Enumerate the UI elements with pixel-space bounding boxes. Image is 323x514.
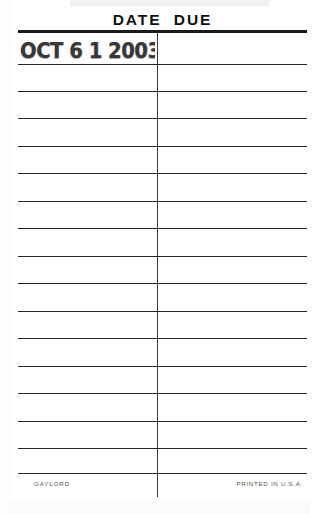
- card-footer: GAYLORD PRINTED IN U.S.A.: [18, 480, 307, 494]
- column-divider: [157, 32, 158, 497]
- grid-rule: [18, 118, 307, 119]
- scan-edge-artifact-top: [70, 0, 270, 6]
- printed-origin: PRINTED IN U.S.A.: [236, 480, 303, 487]
- grid-rule: [18, 228, 307, 229]
- date-stamp-value: OCT 6 1 2003: [20, 38, 146, 64]
- ruled-grid: [18, 30, 307, 474]
- card-header: DATE DUE: [18, 11, 307, 29]
- grid-rule: [18, 64, 307, 65]
- grid-rule: [18, 283, 307, 284]
- grid-rule: [18, 421, 307, 422]
- grid-rule: [18, 448, 307, 449]
- scan-edge-artifact-bottom: [10, 500, 310, 514]
- grid-rule: [18, 366, 307, 367]
- grid-rule: [18, 91, 307, 92]
- grid-rule: [18, 256, 307, 257]
- grid-top-border: [18, 30, 307, 33]
- date-stamp: OCT 6 1 2003: [20, 38, 155, 64]
- grid-rule: [18, 173, 307, 174]
- grid-rule: [18, 201, 307, 202]
- page-title: DATE DUE: [113, 11, 212, 29]
- publisher-brand: GAYLORD: [34, 480, 70, 487]
- grid-rule: [18, 311, 307, 312]
- scan-edge-artifact-left: [0, 0, 11, 514]
- grid-rule: [18, 338, 307, 339]
- grid-rule: [18, 393, 307, 394]
- grid-rule: [18, 473, 307, 474]
- date-due-card: DATE DUE OCT 6 1 2003 GAYLORD PRINTED IN…: [0, 0, 323, 514]
- grid-rule: [18, 146, 307, 147]
